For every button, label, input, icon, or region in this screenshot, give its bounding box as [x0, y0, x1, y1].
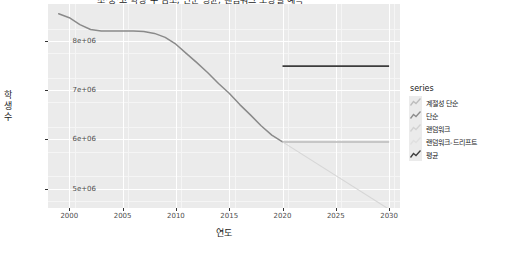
legend-item-label: 평균: [426, 150, 438, 160]
line-glyph-icon: [409, 122, 422, 135]
plot-panel: [48, 4, 400, 208]
legend-item-naive[interactable]: 단순: [409, 109, 477, 122]
legend-item-label: 랜덤워크-드리프트: [426, 137, 477, 147]
legend-item-label: 단순: [426, 111, 438, 121]
y-axis-tick-label: 7e+06: [72, 86, 96, 94]
line-glyph-icon: [409, 109, 422, 122]
y-axis-tick-mark: [45, 90, 48, 91]
x-axis-tick-label: 2000: [60, 212, 78, 220]
y-axis-tick-mark: [45, 139, 48, 140]
y-axis-tick-mark: [45, 189, 48, 190]
x-axis-tick-label: 2015: [220, 212, 238, 220]
x-axis-tick-label: 2020: [274, 212, 292, 220]
line-glyph-icon: [409, 135, 422, 148]
x-axis-tick-label: 2030: [380, 212, 398, 220]
legend-item-label: 랜덤워크: [426, 124, 450, 134]
x-axis-tick-mark: [229, 208, 230, 211]
x-axis-title: 연도: [48, 226, 400, 239]
line-glyph-icon: [409, 96, 422, 109]
legend-item-seasonal-naive[interactable]: 계절성 단순: [409, 96, 477, 109]
line-glyph-icon: [409, 148, 422, 161]
y-axis-title-line-2: 수: [4, 112, 12, 122]
y-axis-tick-label: 8e+06: [72, 37, 96, 45]
legend: series 계절성 단순 단순 랜덤워크 랜덤워크-드리프트: [409, 84, 477, 161]
x-axis-tick-mark: [283, 208, 284, 211]
legend-title: series: [410, 84, 477, 93]
x-axis-tick-mark: [123, 208, 124, 211]
series-canvas: [48, 4, 400, 208]
series-line-history: [59, 14, 283, 142]
y-axis-tick-label: 6e+06: [72, 135, 96, 143]
legend-item-label: 계절성 단순: [426, 98, 458, 108]
x-axis-tick-mark: [389, 208, 390, 211]
y-axis-tick-label: 5e+06: [72, 185, 96, 193]
x-axis-tick-mark: [336, 208, 337, 211]
x-axis-tick-label: 2010: [167, 212, 185, 220]
x-axis-tick-label: 2005: [114, 212, 132, 220]
y-axis-title: 학생수: [2, 90, 14, 123]
legend-item-random-walk[interactable]: 랜덤워크: [409, 122, 477, 135]
x-axis-tick-label: 2025: [327, 212, 345, 220]
chart-root: 초·중·고 학생 수 감소, 단순 평균, 랜덤워크 모형별 예측: [0, 0, 508, 258]
series-line-random-walk-drift: [283, 142, 390, 208]
y-axis-title-line-1: 학생: [4, 90, 12, 111]
y-axis-tick-mark: [45, 41, 48, 42]
x-axis-tick-mark: [176, 208, 177, 211]
x-axis-tick-mark: [69, 208, 70, 211]
legend-item-mean[interactable]: 평균: [409, 148, 477, 161]
legend-item-random-walk-drift[interactable]: 랜덤워크-드리프트: [409, 135, 477, 148]
